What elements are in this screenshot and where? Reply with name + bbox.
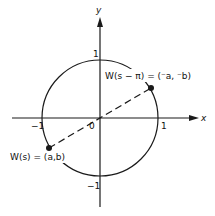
label-w-s: W(s) = (a,b) [10, 152, 65, 162]
tick-origin: 0 [89, 121, 95, 131]
tick-y-neg: −1 [87, 181, 100, 191]
tick-y-pos: 1 [93, 49, 99, 59]
point-w-s [46, 145, 52, 151]
label-w-s-minus-pi: W(s − π) = (⁻a, ⁻b) [105, 71, 191, 81]
unit-circle-diagram: x y 1 −1 1 −1 0 W(s − π) = (⁻a, ⁻b) W(s)… [0, 0, 215, 216]
x-axis-label: x [200, 113, 207, 123]
tick-x-neg: −1 [31, 121, 44, 131]
y-axis-arrow-icon [97, 17, 103, 27]
y-axis-label: y [95, 5, 102, 15]
point-w-s-minus-pi [148, 85, 154, 91]
x-axis-arrow-icon [189, 115, 199, 121]
tick-x-pos: 1 [161, 121, 167, 131]
